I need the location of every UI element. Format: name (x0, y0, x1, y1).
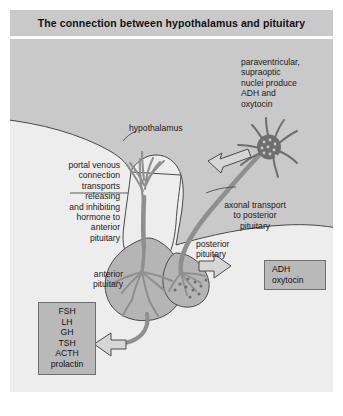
label-paraventricular-nuclei: paraventricular, supraoptic nuclei produ… (241, 57, 331, 109)
portal-vein-stalk (143, 197, 144, 247)
page-title: The connection between hypothalamus and … (38, 17, 305, 29)
figure-title-bar: The connection between hypothalamus and … (10, 10, 333, 36)
label-portal-venous-connection: portal venous connection transports rele… (22, 160, 120, 243)
label-posterior-pituitary: posterior pituitary (196, 239, 258, 260)
anterior-hormones-box: FSH LH GH TSH ACTH prolactin (38, 302, 96, 375)
portal-vein-branch-main (142, 247, 144, 272)
adh-oxytocin-box: ADH oxytocin (264, 260, 326, 290)
figure-panel: The connection between hypothalamus and … (10, 10, 333, 392)
label-anterior-pituitary: anterior pituitary (65, 269, 123, 290)
label-axonal-transport: axonal transport to posterior pituitary (200, 200, 310, 231)
label-hypothalamus: hypothalamus (129, 123, 219, 133)
